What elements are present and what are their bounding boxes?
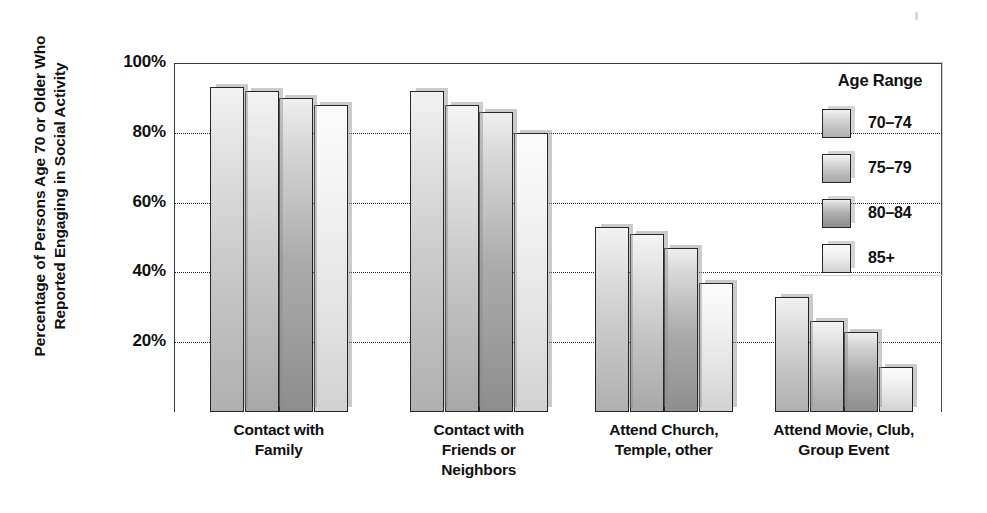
category-label: Attend Movie, Club,Group Event [735, 420, 953, 460]
bar-slot [210, 63, 244, 412]
bar-slot [514, 63, 548, 412]
category-label-line: Attend Movie, Club, [735, 420, 953, 440]
y-tick-100: 100% [88, 52, 166, 72]
bar-slot [479, 63, 513, 412]
bar [699, 283, 733, 412]
bar-slot [445, 63, 479, 412]
legend-swatch [822, 244, 851, 273]
bar-slot [314, 63, 348, 412]
bar [279, 98, 313, 412]
category-label-line: Contact with [170, 420, 388, 440]
bar-slot [664, 63, 698, 412]
bar-slot [279, 63, 313, 412]
bar-chart-figure: Percentage of Persons Age 70 or Older Wh… [0, 0, 987, 513]
category-label: Contact withFamily [170, 420, 388, 460]
y-tick-60: 60% [88, 192, 166, 212]
bar [514, 133, 548, 412]
legend-label: 75–79 [868, 159, 912, 177]
bar [479, 112, 513, 412]
y-tick-40: 40% [88, 261, 166, 281]
bar-group [410, 63, 548, 412]
category-label-line: Family [170, 440, 388, 460]
bar [445, 105, 479, 412]
bar-slot [630, 63, 664, 412]
bar-slot [595, 63, 629, 412]
bar [595, 227, 629, 412]
bar [630, 234, 664, 412]
bar [775, 297, 809, 412]
legend-swatch [822, 199, 851, 228]
x-axis-category-labels: Contact withFamilyContact withFriends or… [174, 420, 942, 508]
bar [810, 321, 844, 412]
legend-item: 75–79 [822, 148, 942, 188]
legend-swatch [822, 109, 851, 138]
legend-item: 80–84 [822, 193, 942, 233]
legend-item: 70–74 [822, 103, 942, 143]
y-axis-title-line1: Percentage of Persons Age 70 or Older Wh… [30, 36, 50, 357]
bar [879, 367, 913, 412]
legend-label: 80–84 [868, 204, 912, 222]
bar [314, 105, 348, 412]
bar [844, 332, 878, 412]
scan-artifact [915, 12, 918, 20]
legend: Age Range 70–7475–7980–8485+ [800, 62, 943, 276]
y-axis-tick-labels: 100%80%60%40%20% [88, 63, 166, 412]
legend-label: 85+ [868, 249, 895, 267]
legend-label: 70–74 [868, 114, 912, 132]
bar [410, 91, 444, 412]
bar-slot [699, 63, 733, 412]
bar-group [595, 63, 733, 412]
y-axis-title: Percentage of Persons Age 70 or Older Wh… [20, 0, 80, 396]
y-tick-20: 20% [88, 331, 166, 351]
bar-slot [410, 63, 444, 412]
y-tick-80: 80% [88, 122, 166, 142]
y-axis-title-line2: Reported Engaging in Social Activity [50, 62, 70, 329]
legend-swatch [822, 154, 851, 183]
category-label-line: Neighbors [370, 460, 588, 480]
bar-slot [245, 63, 279, 412]
bar-group [210, 63, 348, 412]
bar [664, 248, 698, 412]
category-label-line: Group Event [735, 440, 953, 460]
legend-title: Age Range [818, 71, 942, 90]
bar [245, 91, 279, 412]
bar [210, 87, 244, 412]
legend-item: 85+ [822, 238, 942, 278]
